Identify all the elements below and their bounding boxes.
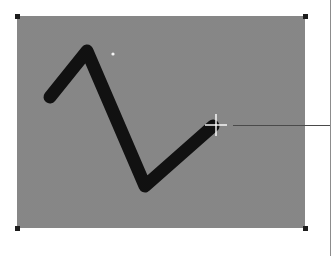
drawn-stroke <box>50 51 213 186</box>
speck <box>111 52 114 55</box>
stroke-layer <box>0 0 332 256</box>
resize-handle-top-right[interactable] <box>303 14 308 19</box>
guide-line <box>233 125 331 126</box>
resize-handle-bottom-right[interactable] <box>303 226 308 231</box>
resize-handle-bottom-left[interactable] <box>15 226 20 231</box>
resize-handle-top-left[interactable] <box>15 14 20 19</box>
panel-divider <box>330 0 331 256</box>
